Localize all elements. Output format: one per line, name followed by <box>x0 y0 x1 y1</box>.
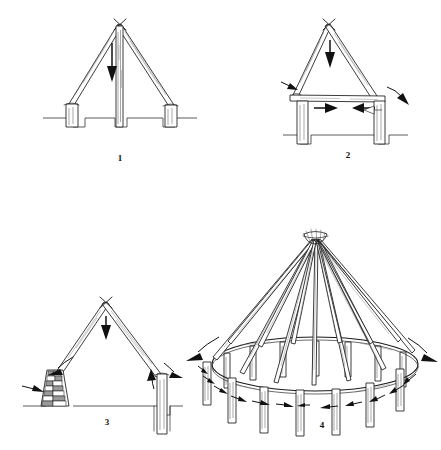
ring-post <box>366 383 374 427</box>
sheet-background <box>0 0 441 450</box>
panel-1-caption: 1 <box>118 153 123 163</box>
ring-post <box>296 390 304 436</box>
panel-4-caption: 4 <box>320 420 325 430</box>
ring-post <box>396 369 404 411</box>
construction-sequence-figure: 1 <box>0 0 441 450</box>
ring-post <box>203 362 211 405</box>
ring-post <box>260 387 268 433</box>
ring-post <box>228 378 236 423</box>
left-post <box>64 103 79 127</box>
centre-post <box>116 26 123 127</box>
panel-2-caption: 2 <box>346 150 351 160</box>
right-post <box>163 104 178 127</box>
ring-post <box>332 389 340 435</box>
figure-sheet: 1 <box>0 0 441 450</box>
left-post <box>297 101 308 144</box>
panel-3-caption: 3 <box>105 417 110 427</box>
right-post <box>374 101 385 144</box>
